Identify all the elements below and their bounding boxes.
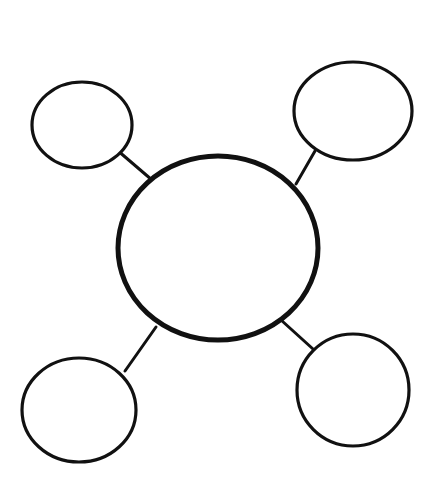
- connector-top-left: [117, 150, 152, 180]
- connector-bottom-right: [281, 320, 313, 349]
- bubble-top-left: [32, 82, 132, 168]
- center-bubble: [118, 156, 318, 340]
- bubble-top-right: [294, 62, 412, 160]
- bubble-bottom-left: [22, 358, 136, 462]
- bubble-bottom-right: [297, 334, 409, 446]
- diagram-canvas: [0, 0, 438, 491]
- center-bubble-group: [118, 156, 318, 340]
- connector-bottom-left: [125, 327, 156, 371]
- bubble-map-diagram: [0, 0, 438, 491]
- connector-top-right: [296, 151, 315, 184]
